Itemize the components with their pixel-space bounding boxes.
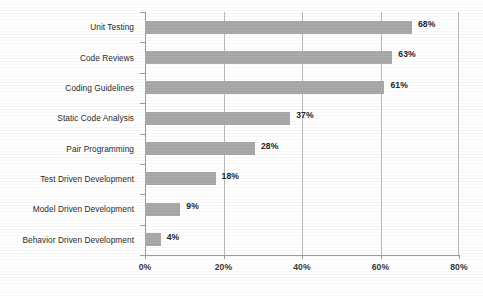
bar-value-test-driven-development: 18% xyxy=(222,171,240,181)
bar-row: 4% xyxy=(145,225,459,255)
category-row: Pair Programming xyxy=(0,134,139,164)
bar-value-pair-programming: 28% xyxy=(261,141,279,151)
bar-value-model-driven-development: 9% xyxy=(186,201,199,211)
bar-coding-guidelines xyxy=(145,81,384,94)
bar-test-driven-development xyxy=(145,172,216,185)
value-tick xyxy=(459,255,460,259)
x-tick-label-0: 0% xyxy=(139,262,152,272)
category-label-unit-testing: Unit Testing xyxy=(90,22,139,32)
value-tick xyxy=(302,255,303,259)
category-label-static-code-analysis: Static Code Analysis xyxy=(57,113,139,123)
category-label-behavior-driven-development: Behavior Driven Development xyxy=(22,235,139,245)
category-row: Code Reviews xyxy=(0,42,139,72)
value-axis-labels: 0% 20% 40% 60% 80% xyxy=(145,262,460,276)
category-label-model-driven-development: Model Driven Development xyxy=(33,204,139,214)
bar-row: 28% xyxy=(145,134,459,164)
bar-value-unit-testing: 68% xyxy=(418,19,436,29)
category-row: Unit Testing xyxy=(0,12,139,42)
category-row: Test Driven Development xyxy=(0,164,139,194)
bar-row: 63% xyxy=(145,42,459,72)
category-row: Behavior Driven Development xyxy=(0,225,139,255)
bar-pair-programming xyxy=(145,142,255,155)
bar-model-driven-development xyxy=(145,203,180,216)
x-tick-label-80: 80% xyxy=(450,262,468,272)
value-tick xyxy=(224,255,225,259)
bar-static-code-analysis xyxy=(145,112,290,125)
category-label-coding-guidelines: Coding Guidelines xyxy=(65,83,139,93)
bar-value-static-code-analysis: 37% xyxy=(296,110,314,120)
x-tick-label-60: 60% xyxy=(372,262,390,272)
bar-row: 18% xyxy=(145,164,459,194)
category-row: Model Driven Development xyxy=(0,194,139,224)
x-tick-label-20: 20% xyxy=(215,262,233,272)
bar-unit-testing xyxy=(145,21,412,34)
bar-row: 9% xyxy=(145,194,459,224)
bar-chart: Unit Testing Code Reviews Coding Guideli… xyxy=(0,0,483,296)
plot-area: 68% 63% 61% 37% 28% 18% 9% 4% xyxy=(145,12,459,255)
bar-value-code-reviews: 63% xyxy=(398,49,416,59)
category-axis: Unit Testing Code Reviews Coding Guideli… xyxy=(0,12,139,255)
category-row: Static Code Analysis xyxy=(0,103,139,133)
bar-row: 37% xyxy=(145,103,459,133)
bar-row: 61% xyxy=(145,73,459,103)
category-label-pair-programming: Pair Programming xyxy=(66,144,139,154)
bar-value-behavior-driven-development: 4% xyxy=(167,232,180,242)
value-tick xyxy=(145,255,146,259)
category-label-code-reviews: Code Reviews xyxy=(80,53,139,63)
bar-row: 68% xyxy=(145,12,459,42)
bar-code-reviews xyxy=(145,51,392,64)
category-row: Coding Guidelines xyxy=(0,73,139,103)
value-tick xyxy=(381,255,382,259)
x-tick-label-40: 40% xyxy=(293,262,311,272)
category-label-test-driven-development: Test Driven Development xyxy=(40,174,139,184)
bar-behavior-driven-development xyxy=(145,233,161,246)
bar-value-coding-guidelines: 61% xyxy=(390,80,408,90)
